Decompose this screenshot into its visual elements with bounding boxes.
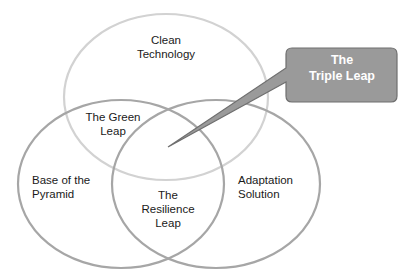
label-clean-technology: Clean Technology	[116, 33, 216, 61]
label-line: The Green	[68, 110, 158, 124]
label-base-of-pyramid: Base of the Pyramid	[32, 173, 122, 201]
label-line: Resilience	[128, 202, 208, 216]
callout-triple-leap: The Triple Leap	[286, 52, 398, 84]
label-line: Pyramid	[32, 187, 122, 201]
label-line: Adaptation	[238, 173, 328, 187]
label-line: The	[128, 188, 208, 202]
label-line: Base of the	[32, 173, 122, 187]
label-line: Leap	[68, 124, 158, 138]
callout-line: Triple Leap	[286, 68, 398, 84]
label-line: Clean	[116, 33, 216, 47]
label-line: Technology	[116, 47, 216, 61]
label-line: Leap	[128, 216, 208, 230]
label-green-leap: The Green Leap	[68, 110, 158, 138]
callout-line: The	[286, 52, 398, 68]
label-resilience-leap: The Resilience Leap	[128, 188, 208, 230]
label-line: Solution	[238, 187, 328, 201]
label-adaptation-solution: Adaptation Solution	[238, 173, 328, 201]
